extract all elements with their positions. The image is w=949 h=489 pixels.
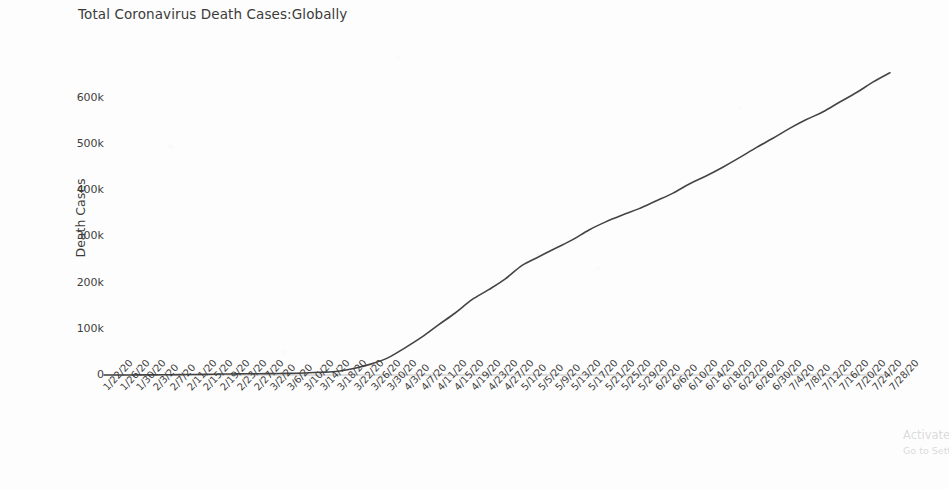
watermark-line-2: Go to Settings to activate Windows. [903,443,949,458]
x-axis-tick-labels: 1/22/201/26/201/30/202/3/202/7/202/11/20… [0,0,949,489]
windows-activation-watermark: Activate Windows Go to Settings to activ… [903,428,949,458]
watermark-line-1: Activate Windows [903,428,949,443]
chart-page: Total Coronavirus Death Cases:Globally D… [0,0,949,489]
